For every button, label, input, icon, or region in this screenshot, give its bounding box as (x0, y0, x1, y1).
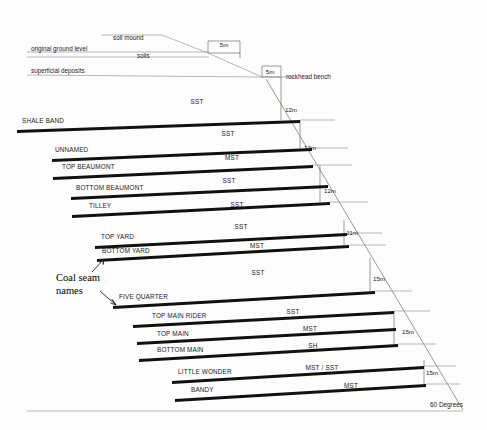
lithology-code-label: SST (234, 223, 247, 230)
coal-seam-names-annotation: Coal seam names (56, 259, 116, 305)
lithology-code-label: MST (250, 242, 264, 249)
lithology-code-label: MST / SST (306, 364, 339, 371)
bench-step-lines (281, 86, 460, 384)
annotation-line-1: Coal seam (56, 272, 100, 283)
lithology-code-label: SST (251, 269, 264, 276)
coal-seam-name-label: TOP MAIN (157, 330, 189, 337)
lithology-code-label: SH (308, 342, 317, 349)
annotation-line-2: names (56, 285, 83, 296)
bench-dimension-label: 5m (266, 68, 275, 75)
lithology-labels: SSTSSTMSTSSTSSTSSTMSTSSTSSTMSTSHMST / SS… (190, 98, 358, 389)
bench-dimension-label: 11m (346, 229, 358, 236)
coal-seam-name-label: UNNAMED (55, 146, 89, 153)
lithology-code-label: SST (190, 98, 203, 105)
lithology-code-label: SST (222, 177, 235, 184)
cross-section-svg: SHALE BANDUNNAMEDTOP BEAUMONTBOTTOM BEAU… (0, 0, 487, 430)
bench-dimension-label: 15m (426, 369, 438, 376)
lithology-code-label: MST (225, 154, 239, 161)
rockhead-bench-label: rockhead bench (286, 73, 331, 80)
bench-dimension-label: 5m (220, 41, 229, 48)
soils-label: soils (137, 52, 150, 59)
bench-dimension-label: 12m (324, 187, 336, 194)
coal-seam-name-label: TILLEY (89, 202, 112, 209)
coal-seam-bar (52, 148, 312, 162)
geological-cross-section-diagram: SHALE BANDUNNAMEDTOP BEAUMONTBOTTOM BEAU… (0, 0, 487, 430)
coal-seam-name-label: SHALE BAND (22, 117, 64, 124)
bench-dimension-label: 13m (304, 144, 316, 151)
coal-seam-name-label: BOTTOM BEAUMONT (76, 184, 143, 191)
sixty-degree-slope-line (266, 79, 463, 410)
coal-seam-name-label: BOTTOM MAIN (157, 346, 204, 353)
slope-angle-label: 60 Degrees (430, 401, 463, 409)
superficial-deposits-label: superficial deposits (31, 67, 85, 75)
soil-mound-slope-line (162, 35, 208, 53)
upper-slope-line (208, 53, 262, 77)
bench-dimension-label: 15m (402, 328, 414, 335)
coal-seam-name-label: BOTTOM YARD (102, 247, 150, 254)
bench-dimension-label: 15m (373, 275, 385, 282)
lithology-code-label: SST (221, 130, 234, 137)
coal-seam-name-label: BANDY (191, 386, 214, 393)
soil-mound-label: soil mound (113, 34, 144, 41)
coal-seam-name-label: TOP YARD (101, 233, 134, 240)
coal-seam-name-label: LITTLE WONDER (178, 368, 232, 375)
bench-dimension-label: 12m (285, 106, 297, 113)
lithology-code-label: SST (286, 308, 299, 315)
original-ground-level-label: original ground level (31, 45, 87, 53)
coal-seam-name-label: TOP MAIN RIDER (152, 312, 207, 319)
coal-seam-name-label: FIVE QUARTER (119, 293, 168, 301)
lithology-code-label: MST (303, 325, 317, 332)
superficial-deposits-line (27, 75, 262, 77)
annotation-leader-lower (100, 291, 116, 305)
coal-seam-name-label: TOP BEAUMONT (62, 163, 115, 170)
lithology-code-label: SST (230, 201, 243, 208)
lithology-code-label: MST (344, 382, 358, 389)
